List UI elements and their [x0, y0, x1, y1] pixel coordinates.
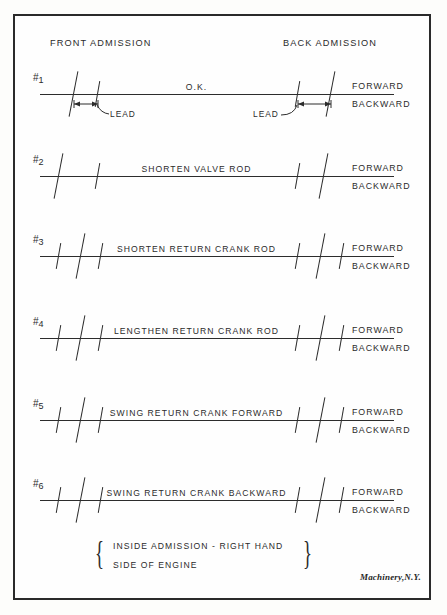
diagram-sheet: FRONT ADMISSION BACK ADMISSION #1O.K.FOR… [0, 0, 447, 615]
axis-line [40, 256, 392, 257]
brace-left-icon: { [95, 536, 104, 570]
axis-line [40, 176, 392, 177]
label-forward: FORWARD [352, 163, 404, 173]
lead-label-front: LEAD [110, 109, 136, 119]
header-back-admission: BACK ADMISSION [283, 38, 377, 48]
diagram-row-2: #2SHORTEN VALVE RODFORWARDBACKWARD [0, 138, 447, 216]
diagram-row-1: #1O.K.FORWARDBACKWARDLEADLEAD [0, 56, 447, 134]
note-block: { INSIDE ADMISSION - RIGHT HAND SIDE OF … [95, 540, 325, 586]
diagram-row-5: #5SWING RETURN CRANK FORWARDFORWARDBACKW… [0, 382, 447, 460]
label-forward: FORWARD [352, 243, 404, 253]
direction-divider [352, 338, 394, 339]
direction-divider [352, 420, 394, 421]
brace-right-icon: } [303, 536, 312, 570]
axis-line [40, 338, 392, 339]
label-backward: BACKWARD [352, 505, 411, 515]
diagram-row-4: #4LENGTHEN RETURN CRANK RODFORWARDBACKWA… [0, 300, 447, 378]
label-backward: BACKWARD [352, 343, 411, 353]
diagram-row-3: #3SHORTEN RETURN CRANK RODFORWARDBACKWAR… [0, 218, 447, 296]
direction-divider [352, 94, 394, 95]
publication-credit: Machinery,N.Y. [360, 572, 421, 582]
axis-line [40, 500, 392, 501]
direction-divider [352, 176, 394, 177]
label-forward: FORWARD [352, 487, 404, 497]
label-backward: BACKWARD [352, 425, 411, 435]
direction-divider [352, 256, 394, 257]
label-backward: BACKWARD [352, 181, 411, 191]
lead-label-back: LEAD [253, 109, 279, 119]
note-line-1: INSIDE ADMISSION - RIGHT HAND [113, 541, 283, 551]
direction-divider [352, 500, 394, 501]
label-backward: BACKWARD [352, 261, 411, 271]
header-front-admission: FRONT ADMISSION [50, 38, 152, 48]
note-line-2: SIDE OF ENGINE [113, 560, 197, 570]
axis-line [40, 420, 392, 421]
label-forward: FORWARD [352, 325, 404, 335]
lead-annotation-group [0, 56, 447, 134]
label-forward: FORWARD [352, 407, 404, 417]
diagram-row-6: #6SWING RETURN CRANK BACKWARDFORWARDBACK… [0, 462, 447, 540]
